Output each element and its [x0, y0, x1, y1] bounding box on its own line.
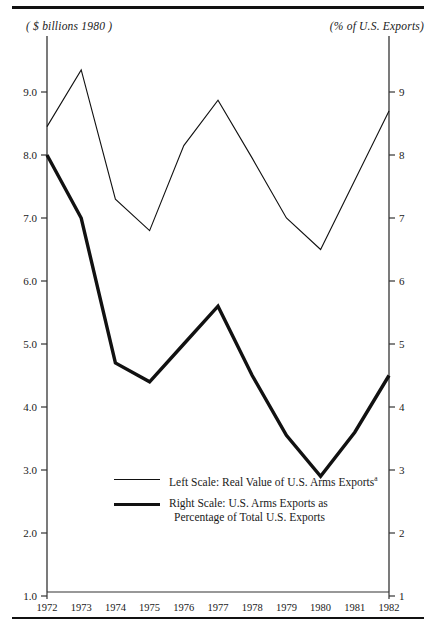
right-axis-tick-label: 5	[399, 338, 405, 350]
left-axis-tick-label: 2.0	[23, 527, 37, 539]
right-axis-tick-label: 1	[399, 590, 405, 602]
legend-item-right-scale: Right Scale: U.S. Arms Exports as Percen…	[114, 496, 394, 524]
x-axis-tick-label: 1979	[276, 602, 297, 613]
series-layer	[47, 70, 389, 476]
x-axis-tick-label: 1978	[242, 602, 263, 613]
legend-item-left-scale: Left Scale: Real Value of U.S. Arms Expo…	[114, 472, 394, 489]
x-axis-tick-label: 1973	[71, 602, 92, 613]
left-axis-tick-label: 7.0	[23, 212, 37, 224]
left-axis-tick-label: 8.0	[23, 149, 37, 161]
chart-plot-area: 1.02.03.04.05.06.07.08.09.01234567891972…	[0, 0, 436, 627]
right-axis-tick-label: 8	[399, 149, 405, 161]
right-axis-tick-label: 4	[399, 401, 405, 413]
legend-swatch-thick-line	[114, 496, 160, 506]
right-axis-tick-label: 6	[399, 275, 405, 287]
chart-legend: Left Scale: Real Value of U.S. Arms Expo…	[114, 472, 394, 531]
right-axis-tick-label: 3	[399, 464, 405, 476]
left-axis-tick-label: 1.0	[23, 590, 37, 602]
left-axis-tick-label: 6.0	[23, 275, 37, 287]
left-axis-tick-label: 9.0	[23, 86, 37, 98]
x-axis-tick-label: 1976	[173, 602, 194, 613]
right-axis-tick-label: 7	[399, 212, 405, 224]
left-axis-tick-label: 4.0	[23, 401, 37, 413]
x-axis-tick-label: 1974	[105, 602, 127, 613]
x-axis-tick-label: 1982	[379, 602, 400, 613]
right-axis-tick-label: 2	[399, 527, 405, 539]
legend-label-right-scale-line2: Percentage of Total U.S. Exports	[169, 510, 328, 524]
legend-label-left-scale: Left Scale: Real Value of U.S. Arms Expo…	[169, 472, 378, 489]
x-axis-tick-label: 1980	[310, 602, 331, 613]
legend-label-right-scale: Right Scale: U.S. Arms Exports as Percen…	[169, 496, 328, 524]
right-axis-tick-label: 9	[399, 86, 405, 98]
legend-label-right-scale-line1: Right Scale: U.S. Arms Exports as	[169, 497, 328, 509]
left-axis-tick-label: 5.0	[23, 338, 37, 350]
series-line-right-scale	[47, 155, 389, 476]
x-axis-tick-label: 1977	[208, 602, 229, 613]
legend-swatch-thin-line	[114, 472, 160, 480]
chart-svg: 1.02.03.04.05.06.07.08.09.01234567891972…	[0, 0, 436, 627]
left-axis-tick-label: 3.0	[23, 464, 37, 476]
series-line-left-scale	[47, 70, 389, 250]
x-axis-tick-label: 1975	[139, 602, 160, 613]
legend-label-left-scale-text: Left Scale: Real Value of U.S. Arms Expo…	[169, 476, 374, 488]
x-axis-tick-label: 1981	[344, 602, 365, 613]
x-axis-tick-label: 1972	[37, 602, 58, 613]
footnote-marker-a: a	[374, 474, 377, 483]
